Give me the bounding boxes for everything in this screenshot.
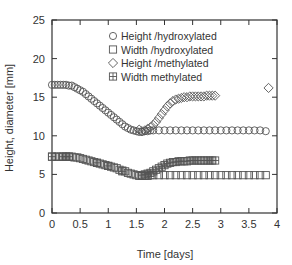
x-tick-label: 2 [161, 218, 167, 230]
scatter-plot: 00.511.522.533.540510152025 Height /hydr… [0, 0, 292, 265]
legend-item: Width /hydroxylated [109, 44, 213, 56]
square-marker [257, 172, 264, 179]
y-tick-label: 0 [39, 207, 45, 219]
square-marker [217, 172, 224, 179]
square-marker [189, 172, 196, 179]
square-marker [228, 172, 235, 179]
x-tick-label: 0.5 [72, 218, 87, 230]
series-height-hydroxylated [48, 81, 269, 135]
x-tick-label: 0 [49, 218, 55, 230]
legend: Height /hydroxylatedWidth /hydroxylatedH… [108, 30, 216, 83]
y-tick-label: 10 [33, 130, 45, 142]
legend-item: Width methylated [109, 71, 202, 83]
y-tick-label: 20 [33, 53, 45, 65]
x-tick-label: 2.5 [185, 218, 200, 230]
y-axis-label: Height, diameter [mm] [3, 64, 15, 172]
square-marker [178, 172, 185, 179]
diamond-marker [264, 83, 273, 92]
square-marker [262, 172, 269, 179]
circle-marker [109, 32, 116, 39]
square-marker [206, 172, 213, 179]
square-marker [161, 172, 168, 179]
y-tick-label: 15 [33, 91, 45, 103]
legend-label: Height /methylated [121, 57, 209, 69]
x-axis-label: Time [days] [137, 248, 193, 260]
x-tick-label: 4 [274, 218, 280, 230]
square-marker [183, 172, 190, 179]
legend-item: Height /methylated [108, 57, 208, 69]
square-marker [195, 172, 202, 179]
square-marker [245, 172, 252, 179]
square-marker [212, 172, 219, 179]
chart-container: 00.511.522.533.540510152025 Height /hydr… [0, 0, 292, 265]
diamond-marker [208, 91, 217, 100]
diamond-marker [108, 58, 117, 67]
legend-item: Height /hydroxylated [109, 30, 216, 42]
square-marker [223, 172, 230, 179]
square-marker [200, 172, 207, 179]
square-marker [109, 46, 116, 53]
square-marker [251, 172, 258, 179]
square-marker [234, 172, 241, 179]
x-tick-label: 3.5 [241, 218, 256, 230]
square-marker [172, 172, 179, 179]
x-tick-label: 1.5 [129, 218, 144, 230]
x-tick-label: 1 [105, 218, 111, 230]
legend-label: Height /hydroxylated [121, 30, 217, 42]
square-marker [240, 172, 247, 179]
square-marker [167, 172, 174, 179]
y-tick-label: 5 [39, 168, 45, 180]
y-tick-label: 25 [33, 14, 45, 26]
legend-label: Width methylated [121, 71, 202, 83]
x-tick-label: 3 [218, 218, 224, 230]
legend-label: Width /hydroxylated [121, 44, 213, 56]
data-series [48, 81, 273, 179]
